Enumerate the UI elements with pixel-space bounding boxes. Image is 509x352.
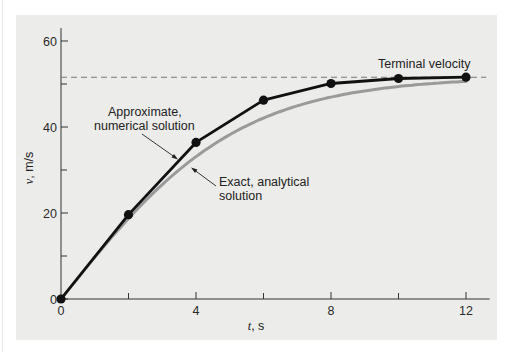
approx-leader-line	[142, 134, 176, 158]
y-tick-label: 60	[43, 35, 57, 49]
y-tick-label: 40	[43, 121, 57, 135]
x-axis-title: t, s	[248, 319, 265, 333]
y-tick-label: 20	[43, 207, 57, 221]
data-point-marker	[124, 210, 133, 219]
velocity-chart: 020406004812 Terminal velocity Approxima…	[0, 0, 509, 352]
data-point-marker	[326, 79, 335, 88]
y-tick-label: 0	[50, 293, 57, 307]
terminal-velocity-label: Terminal velocity	[378, 57, 471, 71]
data-point-marker	[259, 96, 268, 105]
exact-label-line1: Exact, analytical	[219, 175, 309, 189]
x-tick-label: 8	[328, 304, 335, 318]
data-point-marker	[394, 74, 403, 83]
x-tick-label: 4	[193, 304, 200, 318]
approx-leader-arrowhead	[172, 154, 179, 160]
x-tick-label: 12	[459, 304, 473, 318]
data-point-marker	[461, 73, 470, 82]
x-tick-label: 0	[58, 304, 65, 318]
exact-label-line2: solution	[219, 189, 262, 203]
approx-label-line1: Approximate,	[108, 105, 182, 119]
y-axis-title: v, m/s	[22, 152, 36, 185]
exact-leader-arrowhead	[191, 168, 198, 174]
exact-leader-line	[193, 169, 216, 186]
data-point-marker	[56, 294, 65, 303]
approx-label-line2: numerical solution	[94, 119, 195, 133]
data-point-marker	[191, 138, 200, 147]
